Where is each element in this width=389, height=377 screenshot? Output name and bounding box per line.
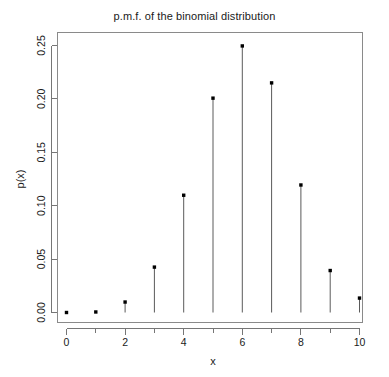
data-point <box>123 300 126 303</box>
x-axis-ticks <box>67 329 360 335</box>
data-point <box>211 96 214 99</box>
data-point <box>65 311 68 314</box>
data-point <box>182 194 185 197</box>
data-point <box>153 265 156 268</box>
x-tick-label: 2 <box>122 336 128 348</box>
data-point <box>358 296 361 299</box>
plot-frame <box>58 33 363 323</box>
y-tick-label: 0.15 <box>35 142 47 163</box>
data-point <box>329 269 332 272</box>
data-point <box>94 310 97 313</box>
y-tick-label: 0.10 <box>35 195 47 216</box>
x-axis-tick-labels: 0 2 4 6 8 10 <box>64 336 366 348</box>
y-axis-title: p(x) <box>14 170 26 189</box>
y-axis-ticks <box>52 46 57 313</box>
data-point <box>270 81 273 84</box>
y-tick-label: 0.25 <box>35 35 47 56</box>
x-tick-label: 6 <box>239 336 245 348</box>
y-tick-label: 0.20 <box>35 89 47 110</box>
y-axis-tick-labels: 0.00 0.05 0.10 0.15 0.20 0.25 <box>35 35 47 323</box>
chart-figure: p.m.f. of the binomial distribution 0.00… <box>0 0 389 377</box>
x-tick-label: 8 <box>298 336 304 348</box>
y-tick-label: 0.00 <box>35 302 47 323</box>
x-axis-title: x <box>210 355 216 367</box>
x-tick-label: 0 <box>64 336 70 348</box>
data-series-stems <box>65 44 361 314</box>
y-tick-label: 0.05 <box>35 249 47 270</box>
data-point <box>241 44 244 47</box>
x-tick-label: 10 <box>354 336 366 348</box>
plot-area: 0.00 0.05 0.10 0.15 0.20 0.25 0 2 4 6 <box>0 0 389 377</box>
x-tick-label: 4 <box>181 336 187 348</box>
data-point <box>299 183 302 186</box>
